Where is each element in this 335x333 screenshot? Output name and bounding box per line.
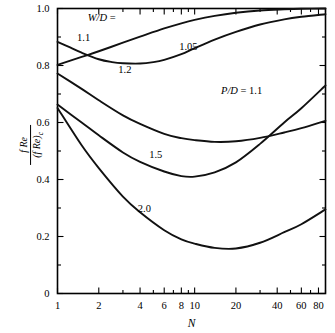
x-axis-title: N: [187, 317, 197, 329]
curve-label-1.1: 1.1: [77, 32, 90, 43]
annotation-0: W/D =: [88, 12, 116, 23]
x-axis-tick-label: 8: [179, 300, 184, 311]
curve-label-1.2: 1.2: [118, 64, 131, 75]
y-axis-tick-label: 0.4: [36, 174, 50, 185]
y-axis-tick-label: 0.8: [36, 60, 49, 71]
x-axis-tick-label: 60: [296, 300, 307, 311]
curve-label-1.5: 1.5: [149, 149, 162, 160]
x-axis-tick-label: 4: [137, 300, 143, 311]
chart-plot-area: 12468102040608000.20.40.60.81.0N1.051.11…: [0, 0, 335, 333]
x-axis-tick-label: 10: [189, 300, 200, 311]
y-axis-tick-label: 0.6: [36, 117, 49, 128]
annotation-1: P/D = 1.1: [220, 85, 262, 96]
curve-label-2.0: 2.0: [138, 203, 151, 214]
x-axis-tick-label: 80: [313, 300, 324, 311]
x-axis-tick-label: 2: [96, 300, 101, 311]
x-axis-tick-label: 6: [162, 300, 167, 311]
y-axis-tick-label: 0: [44, 288, 49, 299]
y-axis-tick-label: 0.2: [36, 231, 49, 242]
x-axis-tick-label: 20: [231, 300, 242, 311]
x-axis-tick-label: 1: [55, 300, 60, 311]
y-axis-tick-label: 1.0: [36, 3, 49, 14]
figure-container: f Re (f Re)c 12468102040608000.20.40.60.…: [0, 0, 335, 333]
data-curve-1.2: [58, 73, 326, 141]
x-axis-tick-label: 40: [272, 300, 283, 311]
data-curve-2.0: [58, 108, 326, 249]
curve-label-1.05: 1.05: [179, 41, 197, 52]
